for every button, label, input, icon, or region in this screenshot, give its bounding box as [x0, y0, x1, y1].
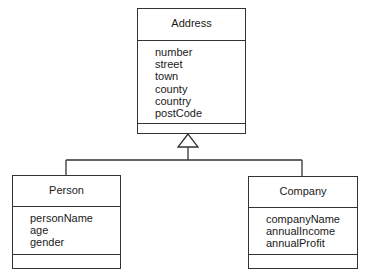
attribute-list: personName age gender	[30, 212, 93, 249]
class-company[interactable]: Company companyName annualIncome annualP…	[248, 176, 358, 269]
class-name: Address	[138, 17, 245, 29]
attribute: personName	[30, 212, 93, 224]
attribute: country	[155, 95, 202, 107]
attributes-separator	[249, 207, 357, 208]
attribute: street	[155, 58, 202, 70]
attribute-list: number street town county country postCo…	[155, 46, 202, 119]
attribute: gender	[30, 236, 93, 248]
operations-separator	[138, 123, 245, 124]
attribute: annualProfit	[266, 237, 340, 249]
generalization-arrowhead	[178, 134, 198, 147]
attribute: county	[155, 83, 202, 95]
attribute: postCode	[155, 107, 202, 119]
class-name: Person	[13, 184, 120, 196]
operations-separator	[13, 254, 120, 255]
class-name: Company	[249, 185, 357, 197]
attributes-separator	[138, 40, 245, 41]
class-address[interactable]: Address number street town county countr…	[137, 8, 246, 134]
attribute-list: companyName annualIncome annualProfit	[266, 213, 340, 250]
attribute: number	[155, 46, 202, 58]
attribute: companyName	[266, 213, 340, 225]
attributes-separator	[13, 206, 120, 207]
attribute: town	[155, 70, 202, 82]
attribute: age	[30, 224, 93, 236]
operations-separator	[249, 254, 357, 255]
attribute: annualIncome	[266, 225, 340, 237]
class-person[interactable]: Person personName age gender	[12, 175, 121, 269]
